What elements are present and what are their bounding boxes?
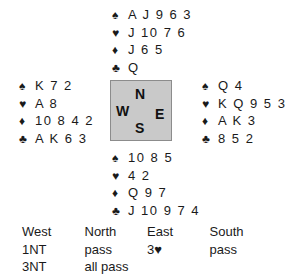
spade-icon: ♠ (112, 7, 128, 25)
spade-icon: ♠ (112, 150, 128, 168)
north-clubs: ♣Q (112, 59, 192, 77)
club-icon: ♣ (202, 131, 218, 149)
compass-north: N (135, 86, 145, 102)
header-west: West (22, 223, 85, 241)
compass-west: W (116, 103, 129, 119)
diamond-icon: ♦ (112, 185, 128, 203)
bid: pass (210, 241, 273, 259)
bid: 3NT (22, 258, 85, 274)
north-hand: ♠A J 9 6 3 ♥J 10 7 6 ♦J 6 5 ♣Q (112, 6, 192, 76)
east-clubs: ♣8 5 2 (202, 130, 286, 148)
header-south: South (210, 223, 273, 241)
south-spades: ♠10 8 5 (112, 149, 200, 167)
header-north: North (85, 223, 148, 241)
auction-table: WestNorthEastSouth 1NTpass3♥pass 3NTall … (22, 223, 272, 274)
north-diamonds: ♦J 6 5 (112, 41, 192, 59)
club-icon: ♣ (19, 131, 35, 149)
diamond-icon: ♦ (112, 42, 128, 60)
west-spades: ♠K 7 2 (19, 77, 94, 95)
heart-icon: ♥ (19, 96, 35, 114)
compass-box: N W E S (110, 80, 172, 141)
diamond-icon: ♦ (202, 113, 218, 131)
heart-icon: ♥ (112, 25, 128, 43)
west-hearts: ♥A 8 (19, 95, 94, 113)
west-diamonds: ♦10 8 4 2 (19, 112, 94, 130)
auction-row: 1NTpass3♥pass (22, 241, 272, 259)
south-hand: ♠10 8 5 ♥4 2 ♦Q 9 7 ♣J 10 9 7 4 (112, 149, 200, 219)
club-icon: ♣ (112, 203, 128, 221)
header-east: East (147, 223, 210, 241)
heart-icon: ♥ (112, 168, 128, 186)
east-diamonds: ♦A K 3 (202, 112, 286, 130)
west-hand: ♠K 7 2 ♥A 8 ♦10 8 4 2 ♣A K 6 3 (19, 77, 94, 147)
auction-header: WestNorthEastSouth (22, 223, 272, 241)
heart-icon: ♥ (202, 96, 218, 114)
compass-south: S (135, 120, 144, 136)
spade-icon: ♠ (19, 78, 35, 96)
north-spades: ♠A J 9 6 3 (112, 6, 192, 24)
south-hearts: ♥4 2 (112, 167, 200, 185)
auction-row: 3NTall pass (22, 258, 272, 274)
compass-east: E (155, 106, 164, 122)
north-hearts: ♥J 10 7 6 (112, 24, 192, 42)
club-icon: ♣ (112, 60, 128, 78)
bid: all pass (85, 258, 148, 274)
spade-icon: ♠ (202, 78, 218, 96)
bid: 3♥ (147, 241, 210, 259)
bid: 1NT (22, 241, 85, 259)
bid: pass (85, 241, 148, 259)
east-spades: ♠Q 4 (202, 77, 286, 95)
south-clubs: ♣J 10 9 7 4 (112, 202, 200, 220)
east-hearts: ♥K Q 9 5 3 (202, 95, 286, 113)
diamond-icon: ♦ (19, 113, 35, 131)
south-diamonds: ♦Q 9 7 (112, 184, 200, 202)
east-hand: ♠Q 4 ♥K Q 9 5 3 ♦A K 3 ♣8 5 2 (202, 77, 286, 147)
west-clubs: ♣A K 6 3 (19, 130, 94, 148)
